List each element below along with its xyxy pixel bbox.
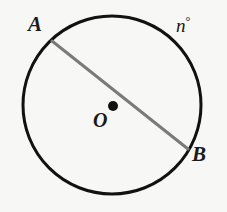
center-point-dot	[108, 101, 118, 111]
geometry-figure: A B O n°	[0, 0, 227, 212]
center-label-o: O	[93, 110, 107, 130]
arc-measure-label: n°	[176, 15, 190, 35]
diameter-segment-ab	[52, 41, 188, 149]
point-label-b: B	[192, 144, 206, 165]
degree-icon: °	[186, 14, 191, 28]
arc-measure-variable: n	[176, 15, 186, 36]
point-label-a: A	[28, 14, 42, 35]
